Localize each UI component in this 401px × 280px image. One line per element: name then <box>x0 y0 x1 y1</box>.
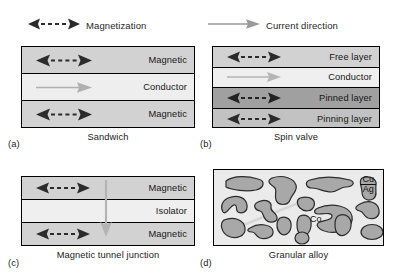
layer-label-conductor: Conductor <box>328 72 372 82</box>
panel-caption-granular-alloy: Granular alloy <box>213 250 384 260</box>
layer-stack-sandwich: Magnetic Conductor <box>21 46 195 128</box>
double-headed-dashed-arrow-icon <box>36 182 90 194</box>
layer-label-pinned-layer: Pinned layer <box>319 93 372 103</box>
layer-label-magnetic-bottom: Magnetic <box>148 229 187 239</box>
double-headed-dashed-arrow-icon <box>36 108 92 121</box>
panel-caption-magnetic-tunnel-junction: Magnetic tunnel junction <box>21 250 195 260</box>
layer-magnetic-bottom: Magnetic <box>22 101 194 127</box>
right-arrow-icon <box>36 81 92 94</box>
double-headed-dashed-arrow-icon <box>36 54 92 67</box>
layer-magnetic-top: Magnetic <box>22 47 194 74</box>
legend-label-current-direction: Current direction <box>266 20 338 31</box>
panel-caption-sandwich: Sandwich <box>21 132 195 142</box>
layer-conductor: Conductor <box>213 68 379 89</box>
layer-pinning-layer: Pinning layer <box>213 109 379 129</box>
legend-item-magnetization: Magnetization <box>28 16 146 34</box>
double-headed-dashed-arrow-icon <box>227 113 281 125</box>
panel-tag-d: (d) <box>200 258 212 268</box>
right-arrow-icon <box>208 16 260 34</box>
panel-tag-c: (c) <box>8 258 19 268</box>
matrix-ratio-label: Cu Ag <box>360 175 376 195</box>
panel-tag-a: (a) <box>8 139 20 149</box>
layer-pinned-layer: Pinned layer <box>213 88 379 109</box>
right-arrow-icon <box>227 71 281 83</box>
grain-label-co: Co <box>310 214 322 224</box>
layer-label-magnetic-top: Magnetic <box>148 183 187 193</box>
layer-conductor: Conductor <box>22 74 194 101</box>
double-headed-dashed-arrow-icon <box>227 51 281 63</box>
layer-label-isolator: Isolator <box>156 206 187 216</box>
matrix-denominator: Ag <box>360 184 376 194</box>
matrix-numerator: Cu <box>360 175 376 184</box>
layer-label-magnetic-bottom: Magnetic <box>148 109 187 119</box>
layer-stack-spin-valve: Free layer Conductor <box>212 46 380 128</box>
current-direction-vertical-arrow-icon <box>98 180 114 242</box>
panel-caption-spin-valve: Spin valve <box>212 132 380 142</box>
panel-tag-b: (b) <box>200 139 212 149</box>
double-headed-dashed-arrow-icon <box>227 92 281 104</box>
legend-label-magnetization: Magnetization <box>86 20 146 31</box>
legend-item-current-direction: Current direction <box>208 16 338 34</box>
layer-label-conductor: Conductor <box>143 82 187 92</box>
granular-alloy-matrix: Co Cu Ag <box>213 169 384 246</box>
layer-label-magnetic-top: Magnetic <box>148 55 187 65</box>
double-headed-dashed-arrow-icon <box>36 228 90 240</box>
granular-alloy-grains <box>214 170 384 246</box>
layer-label-pinning-layer: Pinning layer <box>317 114 372 124</box>
figure-canvas: Magnetization Current direction Magne <box>0 0 401 280</box>
layer-label-free-layer: Free layer <box>329 52 372 62</box>
layer-free-layer: Free layer <box>213 47 379 68</box>
double-headed-dashed-arrow-icon <box>28 16 80 34</box>
